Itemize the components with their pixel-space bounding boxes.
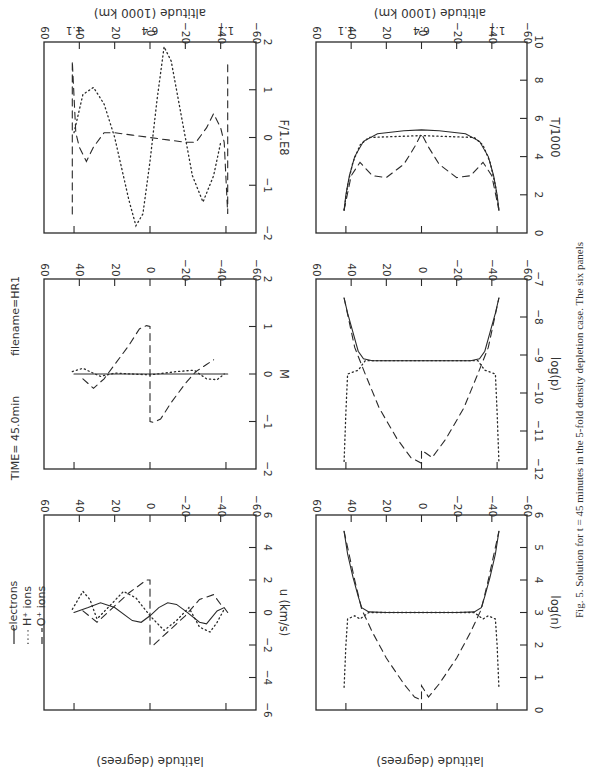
axis-title-T: T/1000 [548, 116, 562, 157]
series-electrons [74, 603, 228, 624]
value-tick-label: 6 [533, 512, 545, 519]
axis-title-logp: log(p) [548, 357, 562, 391]
value-tick-label: 1 [262, 86, 274, 93]
filename-label: filename=HR1 [9, 276, 22, 356]
axis-title-M: M [277, 369, 291, 379]
value-tick-label: −7 [533, 271, 545, 286]
latitude-tick-label: −60 [251, 259, 263, 281]
series-h-ions [344, 613, 499, 688]
value-tick-label: 2 [262, 39, 274, 46]
latitude-tick-label: −20 [452, 495, 464, 517]
series-h-ions [344, 136, 499, 211]
altitude-axis-title-left: altitude (1000 km) [94, 6, 206, 20]
panel-T: 6040200−20−40−600246810T/1000 [311, 22, 562, 236]
value-tick-label: 1 [262, 323, 274, 330]
figure-caption: Fig. 5. Solution for t = 45 minutes in t… [573, 242, 585, 618]
altitude-tick-label: 1.1 [218, 25, 235, 37]
latitude-tick-label: 60 [39, 26, 51, 39]
time-label: TIME= 45.0min [9, 396, 22, 481]
value-tick-label: 0 [262, 134, 274, 141]
value-tick-label: 6 [262, 512, 274, 519]
value-tick-label: 2 [533, 191, 545, 198]
panel-logn: 6040200−20−40−600123456log(n) [311, 495, 562, 713]
value-tick-label: 8 [533, 77, 545, 84]
figure-page: 6040200−20−40−60−2−1012F/1.E86040200−20−… [0, 0, 592, 777]
latitude-tick-label: 20 [381, 263, 393, 276]
series-electrons [344, 531, 499, 612]
value-tick-label: 3 [533, 609, 545, 616]
value-tick-label: −2 [262, 225, 274, 240]
altitude-tick-label: 1.1 [489, 25, 506, 37]
latitude-tick-label: 60 [311, 26, 323, 39]
latitude-tick-label: −20 [180, 259, 192, 281]
latitude-tick-label: 60 [39, 263, 51, 276]
value-tick-label: 0 [533, 707, 545, 714]
latitude-tick-label: 0 [417, 503, 429, 510]
series-o-ions [344, 531, 499, 700]
value-tick-label: 6 [533, 115, 545, 122]
latitude-tick-label: 40 [74, 263, 86, 276]
panel-M: 6040200−20−40−60−2−1012M [39, 259, 291, 477]
latitude-tick-label: 60 [39, 499, 51, 512]
latitude-tick-label: −60 [522, 259, 534, 281]
plot-frame [316, 279, 527, 469]
latitude-tick-label: 40 [346, 499, 358, 512]
latitude-tick-label: −40 [487, 259, 499, 281]
value-tick-label: 0 [533, 230, 545, 237]
latitude-tick-label: −60 [251, 22, 263, 44]
latitude-tick-label: 20 [110, 499, 122, 512]
value-tick-label: −1 [262, 414, 274, 429]
series-o-ions [344, 298, 499, 463]
latitude-tick-label: −40 [216, 495, 228, 517]
latitude-tick-label: −20 [452, 259, 464, 281]
value-tick-label: 5 [533, 544, 545, 551]
latitude-tick-label: 0 [145, 503, 157, 510]
value-tick-label: 0 [262, 371, 274, 378]
latitude-tick-label: 0 [417, 267, 429, 274]
value-tick-label: 4 [533, 153, 545, 160]
altitude-tick-label: 6.4 [141, 25, 158, 37]
plot-frame [44, 515, 256, 710]
altitude-axis-title-right: altitude (1000 km) [374, 6, 486, 20]
value-tick-label: 2 [533, 642, 545, 649]
series-h-ions [74, 47, 221, 226]
series-o-ions [83, 580, 221, 645]
value-tick-label: −1 [262, 178, 274, 193]
plot-frame [316, 42, 527, 233]
altitude-tick-label: 1.1 [66, 25, 83, 37]
latitude-tick-label: 0 [145, 267, 157, 274]
latitude-tick-label: 20 [381, 499, 393, 512]
value-tick-label: −2 [262, 637, 274, 652]
latitude-tick-label: 40 [74, 499, 86, 512]
latitude-tick-label: −60 [522, 22, 534, 44]
latitude-tick-label: 40 [346, 263, 358, 276]
axis-title-F: F/1.E8 [277, 119, 291, 155]
value-tick-label: 1 [533, 674, 545, 681]
latitude-tick-label: −40 [216, 259, 228, 281]
value-tick-label: −12 [533, 458, 545, 480]
value-tick-label: −11 [533, 420, 545, 442]
legend-label: electrons [7, 580, 20, 631]
value-tick-label: −8 [533, 309, 545, 324]
value-tick-label: −9 [533, 347, 545, 362]
latitude-axis-title-left: latitude (degrees) [96, 754, 204, 768]
series-o-ions [344, 134, 499, 210]
latitude-tick-label: 20 [110, 263, 122, 276]
panel-logp: 6040200−20−40−60−12−11−10−9−8−7log(p) [311, 259, 562, 480]
value-tick-label: −4 [262, 670, 274, 686]
latitude-tick-label: −60 [522, 495, 534, 517]
series-h-ions [72, 591, 224, 632]
series-o-ions [72, 61, 227, 214]
altitude-tick-label: 1.1 [338, 25, 355, 37]
latitude-tick-label: −60 [251, 495, 263, 517]
value-tick-label: 0 [262, 609, 274, 616]
altitude-tick-label: 6.4 [413, 25, 430, 37]
latitude-tick-label: −20 [180, 22, 192, 44]
latitude-tick-label: 20 [110, 26, 122, 39]
value-tick-label: 10 [533, 35, 545, 48]
value-tick-label: −10 [533, 382, 545, 404]
panel-u: 6040200−20−40−60−6−4−20246u (km/s) [39, 495, 291, 718]
latitude-tick-label: 20 [381, 26, 393, 39]
value-tick-label: 2 [262, 276, 274, 283]
value-tick-label: 4 [262, 544, 274, 551]
